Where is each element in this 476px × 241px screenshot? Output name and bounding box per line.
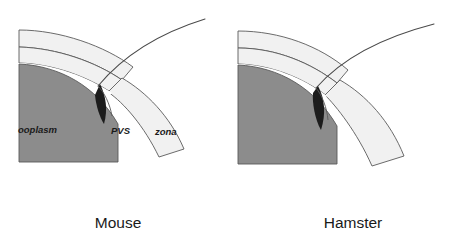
mouse-label-zona: zona <box>154 126 177 137</box>
diagram-canvas: ooplasm PVS zona Mouse <box>0 0 476 241</box>
hamster-panel-caption: Hamster <box>324 214 383 231</box>
sperm-penetration-figure: ooplasm PVS zona Mouse <box>0 0 476 241</box>
mouse-label-ooplasm: ooplasm <box>18 124 58 135</box>
mouse-label-pvs: PVS <box>111 125 131 136</box>
mouse-panel-caption: Mouse <box>95 214 142 231</box>
